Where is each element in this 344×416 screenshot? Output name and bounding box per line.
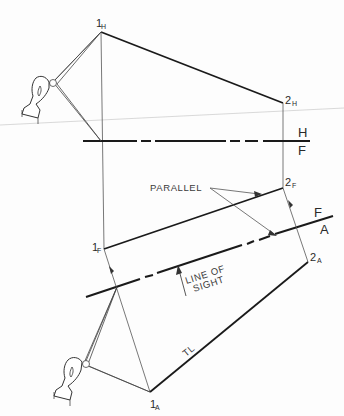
auxiliary-view-diagram: 1 H 2 H 1 F 2 F 1 A 2 A H F F A PARALLEL <box>0 0 344 416</box>
fold-label-f2: F <box>314 205 322 220</box>
svg-text:2: 2 <box>285 94 291 106</box>
arrow-icon <box>109 266 114 274</box>
line-of-sight-annotation: LINE OF SIGHT <box>184 263 230 296</box>
fold-label-h: H <box>298 125 307 140</box>
drawing-canvas: 1 H 2 H 1 F 2 F 1 A 2 A H F F A PARALLEL <box>0 0 344 416</box>
svg-text:A: A <box>155 404 160 411</box>
label-1F: 1 F <box>92 241 101 254</box>
line-of-sight-arrow <box>179 270 186 296</box>
parallel-annotation: PARALLEL <box>150 182 202 193</box>
svg-text:H: H <box>292 100 297 107</box>
line-1A-2A-true-length <box>150 262 308 392</box>
paper-crease <box>0 108 344 125</box>
svg-text:A: A <box>317 257 322 264</box>
hand-with-dividers-icon <box>22 32 101 141</box>
label-2H: 2 H <box>285 94 297 107</box>
line-1H-2H <box>101 32 283 103</box>
fold-label-f: F <box>298 143 306 158</box>
svg-text:H: H <box>101 23 106 30</box>
label-2A: 2 A <box>310 251 322 264</box>
svg-text:2: 2 <box>310 251 316 263</box>
fold-label-a: A <box>320 222 329 237</box>
label-1A: 1 A <box>150 398 160 411</box>
line-1F-2F <box>104 188 283 249</box>
label-2F: 2 F <box>285 176 296 189</box>
label-1H: 1 H <box>96 17 106 30</box>
svg-text:F: F <box>97 247 101 254</box>
svg-text:2: 2 <box>285 176 291 188</box>
svg-text:F: F <box>292 182 296 189</box>
